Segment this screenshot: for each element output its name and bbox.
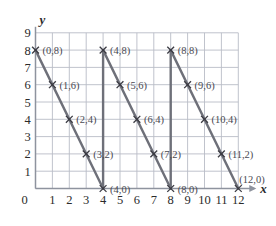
x-tick-label: 4 <box>100 193 107 207</box>
point-label: (3,2) <box>93 149 114 161</box>
point-label: (4,8) <box>110 45 131 57</box>
x-tick-label: 11 <box>215 193 227 207</box>
x-tick-label: 1 <box>49 193 55 207</box>
point-label: (7,2) <box>161 149 182 161</box>
y-tick-label: 6 <box>24 78 30 92</box>
x-tick-label: 10 <box>198 193 211 207</box>
x-tick-label: 12 <box>232 193 245 207</box>
point-label: (9,6) <box>195 80 216 92</box>
x-axis-arrowhead <box>249 185 256 192</box>
y-tick-label: 9 <box>24 26 30 40</box>
axis-lines <box>36 27 257 192</box>
y-tick-label: 7 <box>24 61 30 75</box>
y-tick-label: 5 <box>24 96 30 110</box>
point-label: (6,4) <box>144 114 165 126</box>
y-tick-label: 1 <box>24 165 30 179</box>
x-tick-label: 2 <box>66 193 72 207</box>
x-tick-label: 5 <box>117 193 123 207</box>
x-tick-label: 9 <box>184 193 190 207</box>
x-tick-label: 7 <box>151 193 157 207</box>
graph-canvas: (0,8)(1,6)(2,4)(3,2)(4,0)(4,8)(5,6)(6,4)… <box>0 0 276 226</box>
point-label: (10,4) <box>212 114 238 126</box>
y-tick-label: 8 <box>24 44 30 58</box>
axis-origin-label: 0 <box>21 193 27 207</box>
axis-letters: yx <box>38 12 268 196</box>
coordinate-graph-figure: (0,8)(1,6)(2,4)(3,2)(4,0)(4,8)(5,6)(6,4)… <box>0 0 276 226</box>
point-label: (8,8) <box>178 45 199 57</box>
x-tick-label: 8 <box>168 193 174 207</box>
x-tick-label: 3 <box>83 193 89 207</box>
x-tick-label: 6 <box>134 193 140 207</box>
point-label: (0,8) <box>43 45 64 57</box>
point-label: (11,2) <box>228 149 253 161</box>
y-tick-label: 2 <box>24 147 30 161</box>
x-axis-label: x <box>259 181 267 196</box>
y-tick-label: 4 <box>24 113 31 127</box>
y-tick-label: 3 <box>24 130 30 144</box>
y-axis-label: y <box>38 12 46 27</box>
point-label: (2,4) <box>76 114 97 126</box>
point-label: (5,6) <box>127 80 148 92</box>
point-label: (1,6) <box>59 80 80 92</box>
